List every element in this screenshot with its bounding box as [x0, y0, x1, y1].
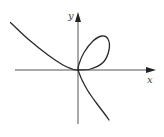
curve-plot: x y [0, 0, 164, 137]
curve-loop [78, 36, 109, 70]
curve-lower-branch [78, 70, 109, 120]
curve-left-branch [11, 23, 79, 71]
x-axis-arrow-icon [146, 67, 156, 73]
x-axis-label: x [147, 74, 153, 85]
y-axis-label: y [67, 10, 74, 21]
y-axis-arrow-icon [75, 12, 81, 22]
